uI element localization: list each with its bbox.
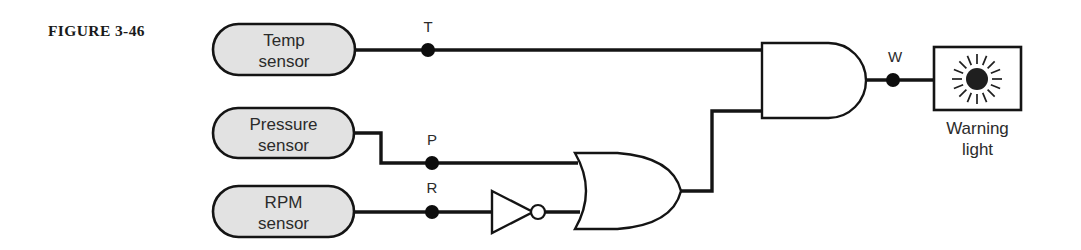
sensor-pressure-label-line2: sensor [258,136,309,155]
warning-light-group: Warninglight [934,47,1021,159]
warning-light-label-line2: light [962,140,993,159]
inverter-bubble-icon [531,205,545,219]
sensor-pressure-label-line1: Pressure [249,115,317,134]
sensor-temp[interactable]: Tempsensor [213,24,355,75]
sensor-rpm-label-line1: RPM [265,193,303,212]
or-gate[interactable] [575,153,681,229]
sensors-group: TempsensorPressuresensorRPMsensor [213,24,355,237]
sensor-pressure[interactable]: Pressuresensor [213,108,354,158]
signal-label-p: P [427,131,437,148]
junction-dot-w-icon [886,73,900,87]
signal-label-w: W [888,48,903,65]
gates-group [492,43,866,233]
and-gate-body [762,43,866,118]
junction-dot-r-icon [425,205,439,219]
or-gate-body [575,153,681,229]
warning-light-indicator[interactable] [934,47,1021,110]
signal-node-r[interactable]: R [425,179,439,219]
signal-label-t: T [423,18,432,35]
signal-node-p[interactable]: P [425,131,439,170]
sun-burst-icon [952,54,1002,104]
logic-diagram-svg: FIGURE 3-46 TempsensorPressuresensorRPMs… [0,0,1081,250]
wire-pressure-to-or [354,133,578,163]
lamp-core [966,68,988,90]
sensor-rpm[interactable]: RPMsensor [213,186,354,237]
sensor-rpm-label-line2: sensor [258,214,309,233]
and-gate[interactable] [762,43,866,118]
sensor-temp-label-line1: Temp [263,31,305,50]
junction-dot-t-icon [421,43,435,57]
inverter-triangle [492,191,533,233]
junction-dot-p-icon [425,156,439,170]
warning-light-label-line1: Warning [946,119,1009,138]
wire-or-to-and [681,111,766,191]
figure-container: FIGURE 3-46 TempsensorPressuresensorRPMs… [0,0,1081,250]
signal-label-r: R [427,179,438,196]
inverter[interactable] [492,191,545,233]
figure-caption: FIGURE 3-46 [48,22,145,39]
sensor-temp-label-line2: sensor [258,52,309,71]
signal-node-t[interactable]: T [421,18,435,57]
